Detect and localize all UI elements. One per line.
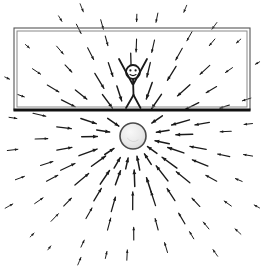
stick-figure-torso: [133, 79, 134, 95]
gravity-field-diagram: Radial gravitational field converging on…: [0, 0, 267, 270]
massive-sphere: [120, 123, 146, 149]
sphere-body: [120, 123, 146, 149]
stick-figure-left-eye: [129, 69, 131, 71]
stick-figure-right-eye: [135, 69, 137, 71]
